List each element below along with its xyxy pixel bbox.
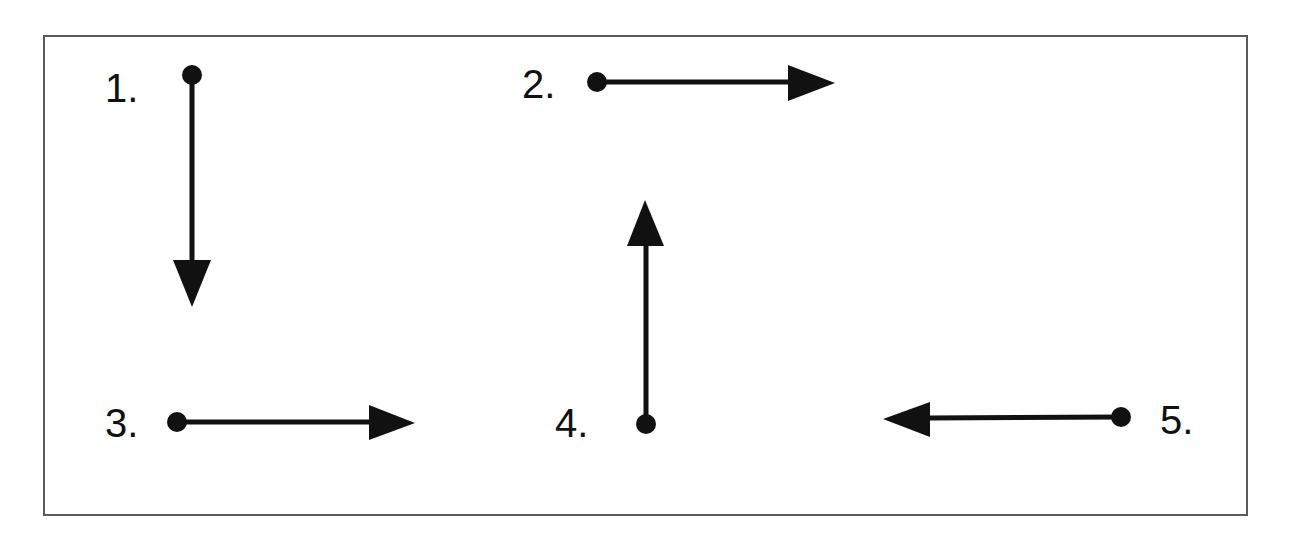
- arrow-item-2: 2.: [522, 62, 835, 106]
- arrow-right-icon: [167, 405, 415, 440]
- start-dot-icon: [636, 414, 656, 434]
- arrowhead-icon: [173, 260, 211, 307]
- start-dot-icon: [167, 412, 187, 432]
- arrowhead-icon: [883, 402, 930, 437]
- step-number-label: 4.: [555, 401, 588, 445]
- start-dot-icon: [587, 72, 607, 92]
- arrow-down-icon: [173, 65, 211, 307]
- arrowhead-icon: [788, 65, 835, 101]
- step-number-label: 5.: [1160, 398, 1193, 442]
- start-dot-icon: [182, 65, 202, 85]
- arrow-item-1: 1.: [105, 65, 211, 307]
- arrow-left-icon: [883, 402, 1131, 437]
- arrow-item-3: 3.: [105, 401, 415, 445]
- arrow-item-5: 5.: [883, 398, 1193, 442]
- arrow-diagram: 1.2.3.4.5.: [0, 0, 1292, 548]
- step-number-label: 3.: [105, 401, 138, 445]
- step-number-label: 1.: [105, 66, 138, 110]
- arrowhead-icon: [627, 200, 664, 246]
- arrow-up-icon: [627, 200, 664, 434]
- arrow-shaft: [928, 417, 1121, 418]
- step-number-label: 2.: [522, 62, 555, 106]
- arrowhead-icon: [369, 405, 415, 440]
- arrow-right-icon: [587, 65, 835, 101]
- arrow-item-4: 4.: [555, 200, 664, 445]
- start-dot-icon: [1111, 407, 1131, 427]
